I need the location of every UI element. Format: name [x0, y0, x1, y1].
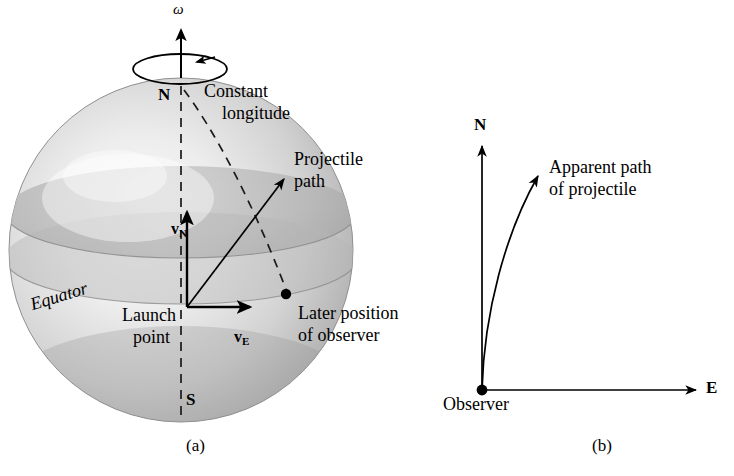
vE-sub: E	[242, 335, 249, 347]
projectile-path-label-line1: Projectile	[294, 150, 363, 169]
vN-sub: N	[179, 227, 187, 239]
launch-point-label-line1: Launch	[122, 306, 176, 325]
north-pole-label: N	[158, 86, 170, 104]
constant-longitude-label-line1: Constant	[204, 82, 268, 101]
vN-label: vN	[155, 204, 187, 257]
vE-label: vE	[218, 312, 249, 365]
vN-base: v	[171, 220, 179, 237]
panel-b-north-label: N	[474, 116, 486, 134]
panel-a-caption: (a)	[186, 437, 205, 455]
panel-b-east-label: E	[706, 379, 717, 397]
launch-point-label-line2: point	[133, 328, 170, 347]
coriolis-figure: ω N S Constant longitude Projectile path…	[0, 0, 734, 476]
omega-label: ω	[173, 2, 184, 18]
constant-longitude-label-line2: longitude	[222, 104, 290, 123]
apparent-path-label-line2: of projectile	[549, 180, 636, 199]
later-observer-dot	[281, 289, 291, 299]
later-position-label-line2: of observer	[298, 326, 379, 345]
apparent-path-curve	[482, 176, 538, 390]
projectile-path-label-line2: path	[294, 172, 325, 191]
vE-base: v	[234, 328, 242, 345]
observer-label: Observer	[443, 395, 509, 414]
panel-a-graphics	[0, 0, 734, 476]
apparent-path-label-line1: Apparent path	[549, 158, 651, 177]
later-position-label-line1: Later position	[298, 304, 398, 323]
south-pole-label: S	[186, 391, 195, 409]
panel-b-caption: (b)	[592, 437, 612, 455]
